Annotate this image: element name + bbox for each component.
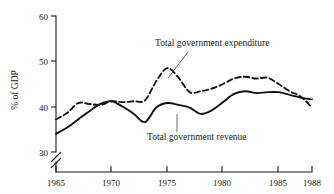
x-tick-label-1965: 1965 <box>47 178 66 188</box>
x-tick-label-1975: 1975 <box>158 178 177 188</box>
y-tick-label-40: 40 <box>39 103 49 113</box>
series-line-total-government-expenditure <box>56 68 312 119</box>
expenditure-label: Total government expenditure <box>155 38 269 48</box>
chart-container: 60 50 40 30 1965 1970 1975 1980 1985 198… <box>0 0 334 194</box>
y-tick-label-60: 60 <box>39 12 49 22</box>
x-tick-label-1970: 1970 <box>102 178 121 188</box>
line-chart: 60 50 40 30 1965 1970 1975 1980 1985 198… <box>0 0 334 194</box>
x-tick-group: 1965 1970 1975 1980 1985 1988 <box>47 166 322 188</box>
y-tick-group: 60 50 40 30 <box>39 12 56 158</box>
x-tick-label-1980: 1980 <box>213 178 232 188</box>
series-line-total-government-revenue <box>56 91 312 134</box>
axis-break-slash-upper <box>51 152 61 162</box>
y-tick-label-50: 50 <box>39 57 49 67</box>
x-tick-label-1988: 1988 <box>303 178 322 188</box>
expenditure-leader-line <box>168 52 188 78</box>
revenue-label: Total government revenue <box>147 132 247 142</box>
y-tick-label-30: 30 <box>39 148 49 158</box>
y-axis-title: % of GDP <box>10 70 20 110</box>
x-tick-label-1985: 1985 <box>269 178 288 188</box>
